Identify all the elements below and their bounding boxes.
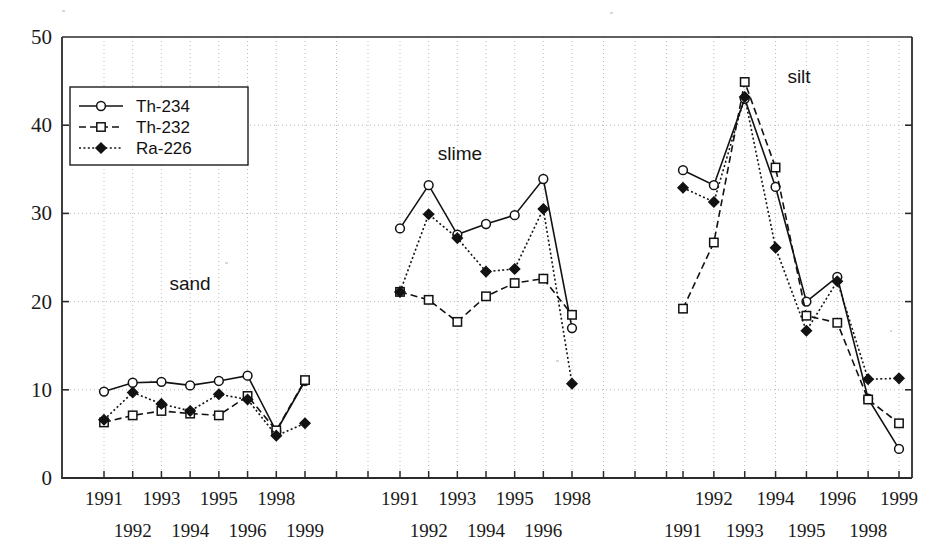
x-tick-label: 1995 [787, 520, 825, 541]
chart-container: 0102030405019911992199319941995199619981… [0, 0, 932, 559]
data-point-th-232 [510, 279, 518, 287]
x-tick-label: 1993 [438, 488, 476, 509]
x-tick-label: 1996 [524, 520, 562, 541]
data-point-th-232 [864, 395, 872, 403]
data-point-ra-226 [709, 197, 719, 207]
data-point-th-232 [679, 304, 687, 312]
x-tick-label: 1992 [410, 520, 448, 541]
y-tick-label: 0 [42, 466, 53, 490]
legend-label: Th-234 [136, 97, 190, 116]
data-point-th-234 [128, 378, 137, 387]
data-point-ra-226 [801, 326, 811, 336]
data-point-th-232 [215, 411, 223, 419]
data-point-ra-226 [770, 243, 780, 253]
panel-silt [678, 78, 904, 454]
x-tick-label: 1996 [229, 520, 267, 541]
x-labels-slime: 1991199219931994199519961998 [381, 488, 591, 541]
scan-noise [62, 10, 892, 382]
data-point-ra-226 [538, 204, 548, 214]
y-tick-label: 30 [31, 201, 52, 225]
data-point-th-232 [97, 123, 105, 131]
data-point-th-232 [741, 78, 749, 86]
y-tick-label: 50 [31, 25, 52, 49]
x-tick-label: 1992 [114, 520, 152, 541]
data-point-th-234 [424, 181, 433, 190]
panel-sand [99, 371, 310, 441]
y-tick-label: 20 [31, 290, 52, 314]
x-tick-label: 1998 [553, 488, 591, 509]
data-point-th-234 [243, 371, 252, 380]
x-tick-label: 1999 [880, 488, 918, 509]
data-point-th-234 [186, 381, 195, 390]
data-point-th-232 [539, 274, 547, 282]
data-point-th-232 [424, 296, 432, 304]
x-tick-label: 1994 [757, 488, 796, 509]
data-point-ra-226 [300, 418, 310, 428]
data-point-ra-226 [678, 183, 688, 193]
data-point-th-232 [895, 419, 903, 427]
x-tick-label: 1998 [849, 520, 887, 541]
panel-label-silt: silt [787, 66, 811, 87]
x-tick-label: 1994 [171, 520, 210, 541]
data-point-th-234 [97, 102, 106, 111]
data-point-th-234 [396, 224, 405, 233]
data-point-th-234 [539, 175, 548, 184]
data-point-th-232 [568, 311, 576, 319]
data-point-th-232 [710, 238, 718, 246]
x-labels-silt: 19911992199319941995199619981999 [664, 488, 918, 541]
data-point-th-234 [709, 181, 718, 190]
legend-label: Ra-226 [136, 139, 192, 158]
x-labels-sand: 19911992199319941995199619981999 [85, 488, 324, 541]
data-point-th-234 [214, 377, 223, 386]
data-point-th-234 [482, 220, 491, 229]
x-tick-label: 1991 [85, 488, 123, 509]
x-tick-label: 1993 [142, 488, 180, 509]
data-point-ra-226 [894, 373, 904, 383]
data-point-th-234 [568, 324, 577, 333]
data-point-th-232 [771, 163, 779, 171]
x-tick-label: 1993 [726, 520, 764, 541]
panel-label-slime: slime [438, 143, 482, 164]
data-point-th-232 [301, 376, 309, 384]
x-tick-label: 1994 [467, 520, 506, 541]
data-point-th-232 [833, 319, 841, 327]
x-tick-label: 1999 [286, 520, 324, 541]
x-axis-ticks [104, 471, 899, 478]
data-point-th-232 [802, 312, 810, 320]
data-point-th-232 [129, 411, 137, 419]
data-point-th-232 [482, 292, 490, 300]
series-th-232 [396, 274, 576, 326]
y-tick-label: 10 [31, 378, 52, 402]
radionuclide-activity-chart: 0102030405019911992199319941995199619981… [0, 0, 932, 559]
x-tick-label: 1995 [496, 488, 534, 509]
x-tick-label: 1992 [695, 488, 733, 509]
data-point-th-234 [100, 387, 109, 396]
data-point-ra-226 [567, 378, 577, 388]
data-point-th-234 [895, 444, 904, 453]
data-point-th-232 [453, 318, 461, 326]
x-tick-label: 1998 [257, 488, 295, 509]
panel-label-sand: sand [169, 273, 210, 294]
data-point-th-234 [510, 211, 519, 220]
legend-label: Th-232 [136, 118, 190, 137]
x-tick-label: 1996 [818, 488, 856, 509]
x-tick-label: 1995 [200, 488, 238, 509]
legend: Th-234Th-232Ra-226 [70, 87, 248, 165]
y-tick-label: 40 [31, 113, 52, 137]
data-point-ra-226 [128, 387, 138, 397]
x-tick-label: 1991 [381, 488, 419, 509]
x-tick-label: 1991 [664, 520, 702, 541]
data-point-ra-226 [214, 389, 224, 399]
data-point-ra-226 [509, 264, 519, 274]
data-point-th-234 [157, 377, 166, 386]
data-point-ra-226 [423, 209, 433, 219]
data-point-th-234 [679, 166, 688, 175]
